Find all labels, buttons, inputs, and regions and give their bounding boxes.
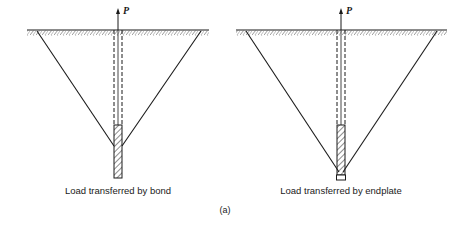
load-arrow-icon: [116, 8, 120, 14]
panel-bond: [27, 8, 209, 178]
load-arrow-icon: [339, 8, 343, 14]
endplate: [337, 175, 346, 180]
bonded-anchor-zone: [114, 125, 122, 178]
failure-cone-left: [246, 31, 339, 172]
load-label-bond: P: [123, 5, 129, 16]
failure-cone-right: [343, 31, 437, 172]
failure-cone-left: [37, 31, 114, 146]
panel-endplate: [236, 8, 447, 180]
load-label-endplate: P: [346, 5, 352, 16]
caption-endplate: Load transferred by endplate: [280, 185, 401, 196]
failure-cone-right: [122, 31, 201, 146]
soil-hatching: [236, 31, 447, 36]
figure-label: (a): [220, 205, 231, 215]
caption-bond: Load transferred by bond: [65, 185, 171, 196]
anchor-body: [337, 125, 345, 175]
